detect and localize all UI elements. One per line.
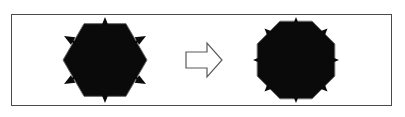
hexagon-arrowhead-down: [101, 92, 110, 103]
hexagon-arrowhead-up: [101, 17, 110, 28]
right-octagon-group: [253, 17, 339, 103]
diagram-canvas: [0, 0, 405, 117]
figure-root: [0, 0, 405, 117]
transformation-arrow-group: [186, 43, 222, 77]
left-hexagon-group: [63, 17, 147, 103]
transformation-arrow-icon: [186, 43, 222, 77]
